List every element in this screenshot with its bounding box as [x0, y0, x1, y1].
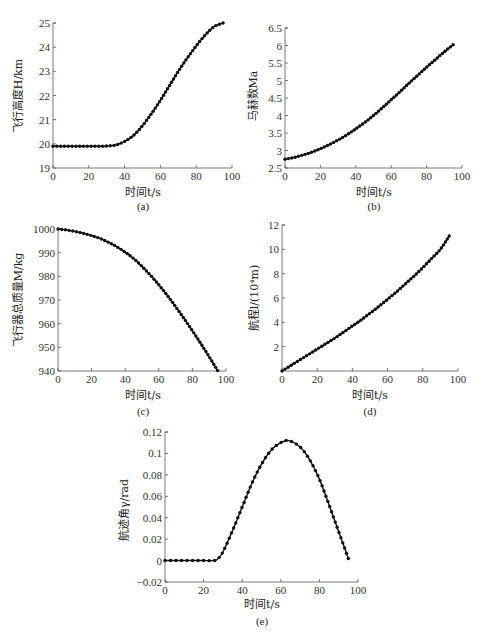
data-point-marker	[147, 116, 150, 119]
data-point-marker	[236, 516, 239, 519]
data-point-marker	[347, 327, 350, 330]
data-point-marker	[324, 494, 327, 497]
data-point-marker	[225, 541, 228, 544]
data-point-marker	[393, 292, 396, 295]
data-point-marker	[417, 270, 420, 273]
data-point-marker	[290, 440, 293, 443]
data-point-marker	[437, 249, 440, 252]
data-point-marker	[89, 234, 92, 237]
y-tick-label: 5.5	[268, 57, 282, 69]
data-point-marker	[299, 446, 302, 449]
data-point-marker	[311, 464, 314, 467]
data-point-marker	[387, 100, 390, 103]
data-point-marker	[287, 157, 290, 160]
ylabel-d: 航程l/(10⁴m)	[247, 265, 261, 332]
data-series-line	[282, 236, 449, 371]
data-point-marker	[240, 506, 243, 509]
y-tick-label: 3.5	[268, 127, 282, 139]
data-point-marker	[425, 262, 428, 265]
data-point-marker	[446, 237, 449, 240]
data-point-marker	[140, 264, 143, 267]
data-point-marker	[323, 343, 326, 346]
data-point-marker	[320, 345, 323, 348]
x-tick-label: 60	[153, 373, 165, 385]
data-point-marker	[289, 364, 292, 367]
data-point-marker	[174, 74, 177, 77]
y-tick-label: 0	[157, 555, 163, 567]
data-point-marker	[396, 289, 399, 292]
y-tick-label: 12	[268, 219, 279, 231]
data-point-marker	[206, 353, 209, 356]
x-tick-label: 20	[86, 373, 98, 385]
data-point-marker	[368, 312, 371, 315]
data-point-marker	[316, 474, 319, 477]
data-point-marker	[374, 308, 377, 311]
data-point-marker	[442, 243, 445, 246]
data-point-marker	[350, 325, 353, 328]
data-point-marker	[97, 145, 100, 148]
data-point-marker	[196, 337, 199, 340]
data-point-marker	[362, 316, 365, 319]
data-point-marker	[390, 294, 393, 297]
data-point-marker	[205, 31, 208, 34]
data-point-marker	[359, 318, 362, 321]
data-point-marker	[177, 310, 180, 313]
data-point-marker	[329, 339, 332, 342]
data-point-marker	[244, 496, 247, 499]
data-point-marker	[319, 147, 322, 150]
data-point-marker	[211, 26, 214, 29]
data-point-marker	[170, 81, 173, 84]
data-point-marker	[129, 136, 132, 139]
x-tick-label: 0	[279, 373, 285, 385]
data-point-marker	[422, 265, 425, 268]
xlabel-c: 时间t/s	[125, 389, 161, 402]
data-point-marker	[326, 341, 329, 344]
data-point-marker	[186, 55, 189, 58]
ylabel-a: 飞行高度H/km	[11, 58, 25, 133]
data-point-marker	[256, 470, 259, 473]
axis-frame	[285, 28, 462, 168]
data-point-marker	[326, 144, 329, 147]
data-point-marker	[388, 296, 391, 299]
data-point-marker	[345, 552, 348, 555]
x-tick-label: 100	[450, 373, 467, 385]
data-point-marker	[221, 551, 224, 554]
data-point-marker	[399, 287, 402, 290]
data-point-marker	[347, 557, 350, 560]
data-point-marker	[361, 122, 364, 125]
y-tick-label: 6.5	[268, 22, 282, 34]
y-tick-label: 24	[39, 41, 51, 53]
data-point-marker	[96, 236, 99, 239]
data-point-marker	[125, 252, 128, 255]
data-point-marker	[415, 272, 418, 275]
chart-panel-b: 0204060801002.533.544.555.566.5	[268, 22, 471, 182]
data-point-marker	[267, 452, 270, 455]
data-point-marker	[264, 456, 267, 459]
x-tick-label: 80	[421, 170, 433, 182]
data-point-marker	[347, 132, 350, 135]
data-point-marker	[74, 145, 77, 148]
y-tick-label: 3	[277, 145, 283, 157]
data-point-marker	[382, 301, 385, 304]
y-tick-label: 19	[39, 162, 51, 174]
y-tick-label: 20	[39, 138, 51, 150]
x-tick-label: 100	[350, 584, 367, 596]
data-point-marker	[228, 536, 231, 539]
data-point-marker	[335, 139, 338, 142]
chart-panel-c: 0204060801009409509609709809901000	[33, 223, 235, 385]
data-point-marker	[293, 362, 296, 365]
data-point-marker	[176, 71, 179, 74]
data-point-marker	[365, 314, 368, 317]
data-point-marker	[305, 354, 308, 357]
data-point-marker	[103, 239, 106, 242]
x-tick-label: 100	[218, 373, 235, 385]
data-point-marker	[166, 87, 169, 90]
data-point-marker	[395, 93, 398, 96]
y-tick-label: 980	[39, 270, 56, 282]
data-point-marker	[163, 559, 166, 562]
ylabel-b: 马赫数Ma	[247, 70, 260, 121]
data-point-marker	[134, 259, 137, 262]
data-point-marker	[152, 277, 155, 280]
data-point-marker	[208, 28, 211, 31]
xlabel-e: 时间t/s	[244, 598, 280, 611]
